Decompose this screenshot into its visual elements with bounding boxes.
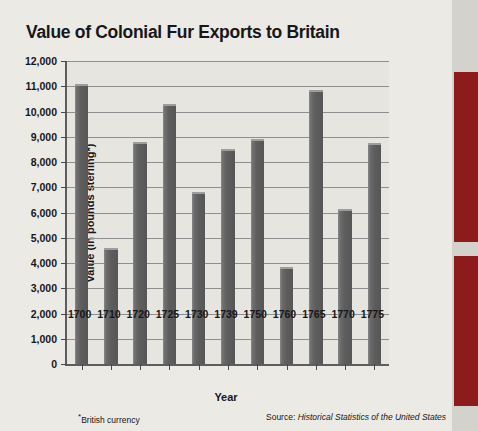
edge-block-bottom: [454, 256, 478, 406]
x-tick-label: 1765: [302, 308, 325, 320]
bar: [309, 90, 322, 364]
x-tick-label: 1770: [331, 308, 354, 320]
y-tick-label: 9,000: [5, 131, 57, 143]
plot-area: Value (in pounds sterling*): [65, 61, 389, 366]
bar: [251, 139, 264, 364]
x-tick: [169, 364, 170, 370]
x-tick-label: 1700: [68, 308, 91, 320]
footnote-text: British currency: [81, 415, 140, 425]
bar: [338, 209, 351, 364]
x-tick-label: 1725: [156, 308, 179, 320]
y-tick-label: 12,000: [5, 55, 57, 67]
x-tick: [374, 364, 375, 370]
x-tick: [228, 364, 229, 370]
bar: [104, 248, 117, 364]
y-tick-label: 6,000: [5, 207, 57, 219]
bar: [221, 149, 234, 364]
x-tick: [140, 364, 141, 370]
x-tick: [257, 364, 258, 370]
y-tick-label: 7,000: [5, 181, 57, 193]
x-tick-label: 1775: [361, 308, 384, 320]
footnote: *British currency: [78, 412, 140, 425]
chart-figure: Value of Colonial Fur Exports to Britain…: [0, 0, 452, 431]
bar: [192, 192, 205, 364]
chart-title: Value of Colonial Fur Exports to Britain: [26, 22, 340, 43]
x-tick-label: 1760: [273, 308, 296, 320]
bar: [163, 104, 176, 364]
x-tick-label: 1750: [244, 308, 267, 320]
x-tick-label: 1710: [97, 308, 120, 320]
bar: [368, 143, 381, 364]
page-edge-strip: [452, 0, 478, 431]
y-tick-label: 3,000: [5, 282, 57, 294]
source-prefix: Source:: [266, 412, 298, 422]
x-tick: [199, 364, 200, 370]
y-tick-label: 2,000: [5, 308, 57, 320]
bar: [75, 84, 88, 364]
x-tick: [111, 364, 112, 370]
y-tick-label: 8,000: [5, 156, 57, 168]
x-tick-label: 1739: [214, 308, 237, 320]
x-tick-label: 1730: [185, 308, 208, 320]
y-tick-label: 11,000: [5, 80, 57, 92]
y-tick-label: 10,000: [5, 106, 57, 118]
y-tick-label: 5,000: [5, 232, 57, 244]
y-tick-label: 4,000: [5, 257, 57, 269]
y-tick-label: 0: [5, 358, 57, 370]
x-tick: [316, 364, 317, 370]
source-title: Historical Statistics of the United Stat…: [298, 412, 446, 422]
edge-block-top: [454, 72, 478, 242]
x-tick-label: 1720: [126, 308, 149, 320]
x-tick: [345, 364, 346, 370]
y-tick: [61, 364, 67, 365]
x-tick: [82, 364, 83, 370]
x-axis-title: Year: [65, 391, 387, 403]
bar: [133, 142, 146, 364]
source-note: Source: Historical Statistics of the Uni…: [266, 412, 446, 422]
x-tick: [287, 364, 288, 370]
y-tick-label: 1,000: [5, 333, 57, 345]
